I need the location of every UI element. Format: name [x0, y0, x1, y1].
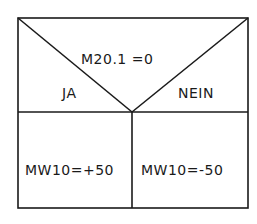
yes-action-text: MW10=+50: [25, 163, 114, 177]
decision-structogram: [0, 0, 257, 224]
condition-label: M20.1 =0: [81, 52, 153, 66]
no-branch-label: NEIN: [178, 86, 214, 100]
no-action-text: MW10=-50: [141, 163, 223, 177]
yes-branch-label: JA: [62, 86, 76, 100]
